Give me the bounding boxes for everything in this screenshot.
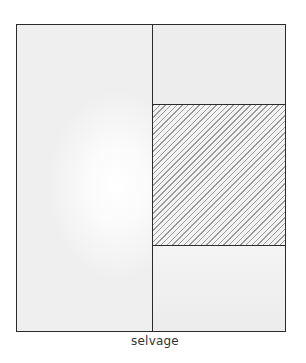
- fabric-outline: [16, 24, 286, 332]
- left-panel: [17, 25, 153, 331]
- selvage-label: selvage: [0, 334, 306, 348]
- fabric-cutting-diagram: selvage: [0, 0, 306, 363]
- right-bottom-panel: [153, 246, 285, 331]
- right-top-panel: [153, 25, 285, 105]
- right-hatched-panel: [153, 105, 285, 246]
